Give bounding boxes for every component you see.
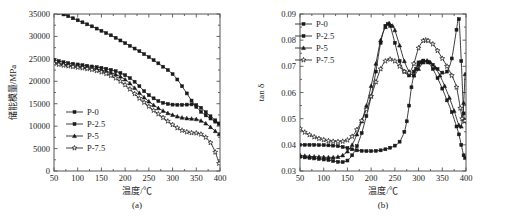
x-tick-label: 350	[436, 173, 449, 183]
y-tick-label: 25000	[29, 54, 50, 64]
legend-item-p-7-5[interactable]: P-7.5	[66, 143, 105, 153]
y-tick-label: 0.05	[281, 114, 296, 124]
x-tick-label: 150	[341, 173, 354, 183]
legend-item-p-0[interactable]: P-0	[66, 107, 99, 117]
legend-label: P-5	[316, 43, 328, 53]
legend-label: P-0	[87, 107, 99, 117]
panel-caption: (b)	[378, 200, 389, 210]
y-tick-label: 20000	[29, 76, 50, 86]
x-tick-label: 250	[142, 173, 155, 183]
panel-caption: (a)	[132, 200, 142, 210]
legend-item-p-7-5[interactable]: P-7.5	[295, 55, 334, 65]
y-tick-label: 0.08	[281, 35, 296, 45]
figure-container: 5010015020025030035040005000100001500020…	[0, 0, 509, 222]
series-p-5	[52, 60, 221, 136]
x-tick-label: 150	[95, 173, 108, 183]
y-tick-label: 0.03	[281, 166, 296, 176]
series-group	[52, 9, 222, 165]
legend-label: P-7.5	[87, 143, 105, 153]
x-tick-label: 300	[412, 173, 425, 183]
x-tick-label: 400	[214, 173, 227, 183]
chart-a-svg: 5010015020025030035040005000100001500020…	[0, 0, 254, 222]
plot-frame	[54, 14, 220, 171]
legend-label: P-7.5	[316, 55, 334, 65]
legend-item-p-2-5[interactable]: P-2.5	[295, 31, 334, 41]
legend: P-0P-2.5P-5P-7.5	[66, 107, 105, 153]
y-tick-label: 0.07	[281, 61, 296, 71]
y-tick-label: 10000	[29, 121, 50, 131]
series-p-7-5	[298, 38, 468, 144]
x-tick-label: 300	[166, 173, 179, 183]
y-tick-label: 30000	[29, 31, 50, 41]
chart-panel-a: 5010015020025030035040005000100001500020…	[0, 0, 254, 222]
y-axis-title: 储能模量/MPa	[7, 65, 18, 121]
x-tick-label: 350	[190, 173, 203, 183]
legend-label: P-2.5	[316, 31, 334, 41]
x-tick-label: 200	[119, 173, 132, 183]
x-axis-title: 温度/℃	[122, 185, 152, 196]
x-tick-label: 50	[50, 173, 59, 183]
chart-b-svg: 501001502002503003504000.030.040.050.060…	[255, 0, 509, 222]
y-tick-label: 5000	[33, 144, 50, 154]
legend-item-p-5[interactable]: P-5	[66, 131, 99, 141]
chart-panel-b: 501001502002503003504000.030.040.050.060…	[255, 0, 509, 222]
y-tick-label: 35000	[29, 9, 50, 19]
x-axis-title: 温度/℃	[368, 185, 398, 196]
y-tick-label: 15000	[29, 99, 50, 109]
legend-label: P-5	[87, 131, 99, 141]
y-tick-label: 0.04	[281, 140, 297, 150]
y-tick-label: 0	[46, 166, 50, 176]
x-tick-label: 250	[388, 173, 401, 183]
x-tick-label: 100	[317, 173, 330, 183]
y-tick-label: 0.06	[281, 88, 296, 98]
x-tick-label: 100	[71, 173, 84, 183]
legend: P-0P-2.5P-5P-7.5	[295, 19, 334, 65]
y-axis-title: tan δ	[256, 84, 266, 102]
series-line	[54, 62, 219, 134]
legend-label: P-2.5	[87, 119, 105, 129]
legend-item-p-2-5[interactable]: P-2.5	[66, 119, 105, 129]
legend-label: P-0	[316, 19, 328, 29]
x-tick-label: 50	[296, 173, 305, 183]
x-tick-label: 200	[365, 173, 378, 183]
series-p-7-5	[52, 61, 222, 166]
y-tick-label: 0.09	[281, 9, 296, 19]
x-tick-label: 400	[460, 173, 473, 183]
